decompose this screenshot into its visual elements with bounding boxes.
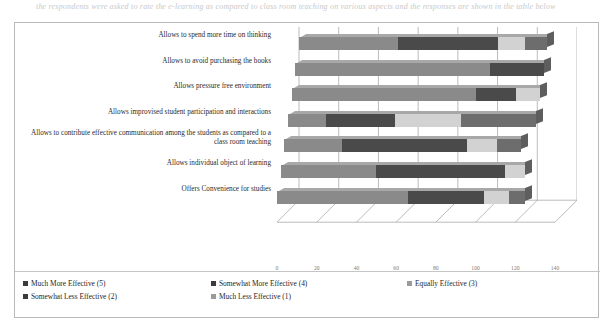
legend-label: Equally Effective (3) — [415, 279, 477, 288]
bar-top-face — [283, 162, 532, 165]
bar-segment — [326, 114, 396, 127]
legend-swatch-icon — [211, 294, 216, 299]
legend-swatch-icon — [407, 281, 412, 286]
bar-side-face — [540, 82, 547, 98]
bar-segment — [277, 191, 408, 204]
bar-segment — [498, 37, 526, 50]
bar-segment — [516, 88, 540, 101]
legend-label: Somewhat More Effective (4) — [219, 279, 307, 288]
bar-top-face — [294, 85, 547, 88]
bar-segment — [284, 139, 342, 152]
category-label: Allows pressure free environment — [19, 82, 271, 91]
page-top-text-fragment: the respondents were asked to rate the e… — [0, 0, 613, 14]
bar-segment — [490, 63, 544, 76]
bar-top-face — [279, 188, 532, 191]
bar-top-face — [286, 136, 527, 139]
legend-swatch-icon — [23, 281, 28, 286]
bar-segment — [509, 191, 525, 204]
legend-swatch-icon — [23, 294, 28, 299]
bar-top-face — [290, 111, 543, 114]
bar-side-face — [525, 159, 532, 175]
bar-top-face — [301, 34, 554, 37]
category-label: Allows to avoid purchasing the books — [19, 57, 271, 66]
bar-segment — [467, 139, 497, 152]
category-label: Allows to contribute effective communica… — [19, 129, 271, 147]
bar-segment — [476, 88, 516, 101]
legend-item[interactable]: Much Less Effective (1) — [211, 291, 291, 302]
bar-segment — [497, 139, 521, 152]
chart-legend: Much More Effective (5)Somewhat More Eff… — [15, 271, 600, 317]
legend-swatch-icon — [211, 281, 216, 286]
category-label: Allows individual object of learning — [19, 159, 271, 168]
bar-segment — [505, 165, 525, 178]
legend-item[interactable]: Somewhat More Effective (4) — [211, 278, 307, 289]
legend-item[interactable]: Much More Effective (5) — [23, 278, 105, 289]
bar-segment — [288, 114, 326, 127]
bar-segment — [398, 37, 497, 50]
bar-side-face — [521, 134, 528, 150]
bar-segment — [342, 139, 467, 152]
legend-label: Much Less Effective (1) — [219, 292, 291, 301]
bar-top-face — [297, 60, 550, 63]
category-axis-labels: Allows to spend more time on thinkingAll… — [15, 23, 277, 241]
category-label: Offers Convenience for studies — [19, 185, 271, 194]
bar-segment — [299, 37, 398, 50]
bar-segment — [408, 191, 483, 204]
bar-side-face — [547, 31, 554, 47]
category-label: Allows to spend more time on thinking — [19, 31, 271, 40]
chart-frame: Allows to spend more time on thinkingAll… — [14, 22, 599, 318]
legend-item[interactable]: Somewhat Less Effective (2) — [23, 291, 117, 302]
legend-label: Somewhat Less Effective (2) — [31, 292, 117, 301]
bar-segment — [281, 165, 376, 178]
bar-side-face — [536, 108, 543, 124]
plot-area — [277, 27, 577, 263]
bar-segment — [376, 165, 505, 178]
bar-segment — [461, 114, 536, 127]
bar-segment — [295, 63, 490, 76]
bar-side-face — [525, 185, 532, 201]
gridline — [555, 27, 577, 222]
bar-segment — [525, 37, 547, 50]
bar-segment — [292, 88, 477, 101]
bar-segment — [395, 114, 461, 127]
plot-wrapper: Allows to spend more time on thinkingAll… — [15, 23, 600, 263]
bar-segment — [484, 191, 510, 204]
bar-side-face — [544, 57, 551, 73]
legend-label: Much More Effective (5) — [31, 279, 105, 288]
category-label: Allows improvised student participation … — [19, 108, 271, 117]
legend-item[interactable]: Equally Effective (3) — [407, 278, 477, 289]
